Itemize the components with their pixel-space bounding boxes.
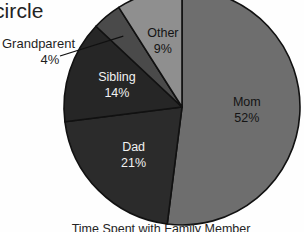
pie-slice-group [64,0,300,225]
chart-caption-text: Time Spent with Family Member [54,222,251,232]
pie-chart-figure: circle Mom52%Dad21%Sibling14%Other9% Gra… [0,0,304,232]
pie-chart-graphic: Mom52%Dad21%Sibling14%Other9% [0,0,304,232]
slice-label-value-dad: 21% [121,156,146,170]
grandparent-callout-name: Grandparent [2,36,120,51]
slice-label-name-mom: Mom [233,95,261,109]
slice-label-name-dad: Dad [122,140,145,154]
grandparent-callout-value: 4% [2,52,98,67]
slice-label-name-sibling: Sibling [98,70,136,84]
grandparent-callout-label: Grandparent 4% [2,36,120,67]
slice-label-value-other: 9% [154,42,172,56]
slice-label-value-mom: 52% [234,111,259,125]
chart-caption: Time Spent with Family Member [0,222,304,232]
slice-label-value-sibling: 14% [104,86,129,100]
slice-label-name-other: Other [147,26,178,40]
